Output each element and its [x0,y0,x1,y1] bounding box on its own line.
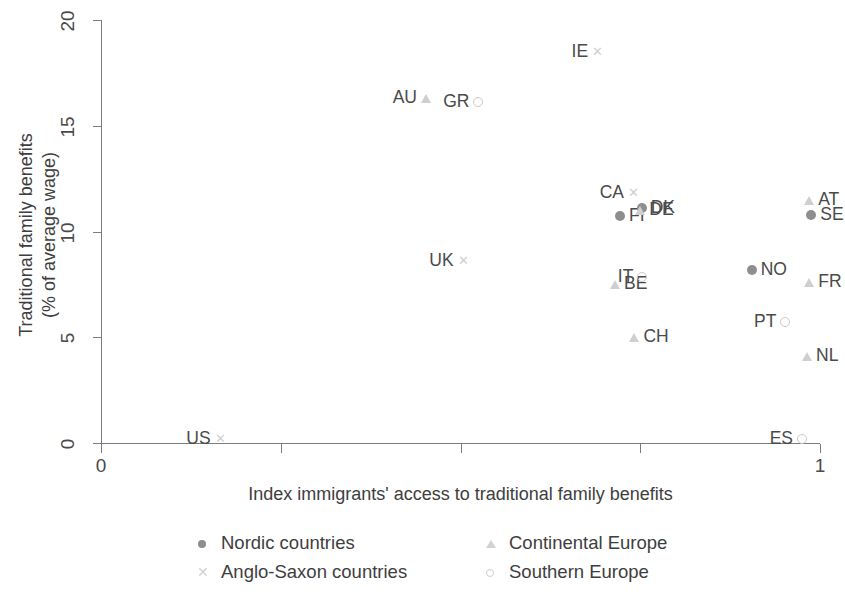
cross-marker: ✕ [215,434,225,444]
x-tick-label: 1 [805,455,835,477]
filled-circle-marker [615,211,625,221]
legend-label: Continental Europe [509,532,667,554]
cross-marker: ✕ [628,188,638,198]
open-circle-marker [780,317,790,327]
legend-item[interactable]: Continental Europe [484,532,667,554]
data-point-label: UK [429,252,453,270]
y-axis-title-line1: Traditional family benefits [16,133,36,336]
open-circle-icon [484,565,498,579]
triangle-marker [635,206,645,215]
x-axis-title: Index immigrants' access to traditional … [101,484,820,505]
data-point-label: AT [818,191,839,209]
open-circle-marker [797,434,807,444]
triangle-marker [804,196,814,205]
data-point-label: AU [393,89,417,107]
triangle-marker [421,94,431,103]
y-tick [93,20,101,21]
legend-label: Nordic countries [221,532,355,554]
y-axis-title: Traditional family benefits (% of averag… [15,45,61,425]
x-tick [461,444,462,453]
y-tick [93,337,101,338]
y-tick-label: 20 [57,1,79,41]
data-point-label: IE [572,43,589,61]
data-point-label: CH [643,328,668,346]
legend-label: Anglo-Saxon countries [221,561,407,583]
data-point-label: NL [816,347,838,365]
data-point-label: NO [761,261,787,279]
x-tick-label: 0 [86,455,116,477]
filled-circle-icon [196,536,210,550]
legend-item[interactable]: ✕Anglo-Saxon countries [196,561,407,583]
data-point-label: IT [618,268,634,286]
chart-legend: Nordic countriesContinental Europe✕Anglo… [196,532,796,590]
data-point-label: GR [443,93,469,111]
data-point-label: CA [600,184,624,202]
y-axis-title-line2: (% of average wage) [39,152,59,318]
y-tick [93,126,101,127]
legend-row: ✕Anglo-Saxon countriesSouthern Europe [196,561,796,590]
cross-marker: ✕ [458,256,468,266]
scatter-chart: 0510152001 Traditional family benefits (… [0,0,845,594]
y-tick-label: 0 [57,424,79,464]
x-tick [281,444,282,453]
filled-circle-marker [747,265,757,275]
data-point-label: PT [754,313,776,331]
triangle-icon [484,536,498,550]
legend-item[interactable]: Nordic countries [196,532,355,554]
triangle-marker [629,333,639,342]
data-point-label: DE [649,201,673,219]
plot-area: FIDKNOSE✕IE✕CA✕UK✕USAUDEBECHATFRNLGRITPT… [101,20,820,443]
x-tick [640,444,641,453]
legend-label: Southern Europe [509,561,649,583]
data-point-label: ES [770,430,793,448]
data-point-label: FR [818,273,841,291]
x-tick [101,444,102,453]
legend-row: Nordic countriesContinental Europe [196,532,796,561]
cross-marker: ✕ [592,47,602,57]
cross-icon: ✕ [196,565,210,579]
y-tick [93,443,101,444]
triangle-marker [802,352,812,361]
open-circle-marker [473,97,483,107]
x-tick [820,444,821,453]
triangle-marker [804,278,814,287]
filled-circle-marker [806,210,816,220]
legend-item[interactable]: Southern Europe [484,561,649,583]
y-tick [93,232,101,233]
data-point-label: US [186,430,210,448]
